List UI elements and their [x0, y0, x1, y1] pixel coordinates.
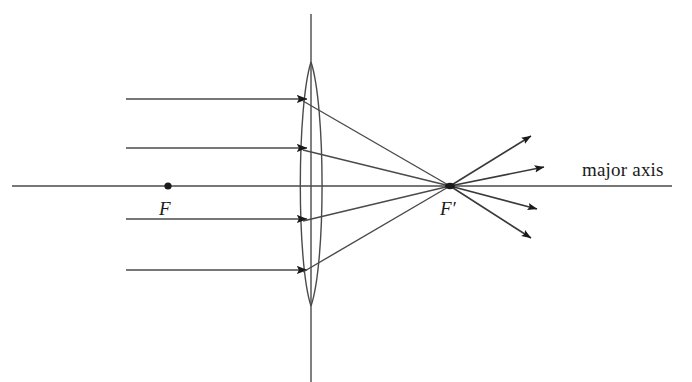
refracted-ray-1 [303, 101, 450, 186]
incident-ray-group [126, 99, 307, 270]
diverging-ray-group [450, 136, 544, 238]
focal-point-F-prime-dot [445, 183, 455, 189]
lens-right-surface [311, 62, 322, 306]
major-axis-label: major axis [582, 159, 664, 181]
refracted-ray-2 [303, 150, 450, 186]
ray-diagram-canvas: F F′ major axis [0, 0, 692, 382]
optics-diagram-svg [0, 0, 692, 382]
focal-point-F-dot [164, 182, 171, 189]
diverging-ray-3 [450, 186, 537, 209]
focal-point-F-label: F [159, 198, 171, 220]
focal-point-F-prime-label: F′ [440, 198, 456, 220]
refracted-ray-3 [303, 186, 450, 221]
refracted-ray-4 [303, 186, 450, 272]
diverging-ray-4 [450, 186, 531, 238]
